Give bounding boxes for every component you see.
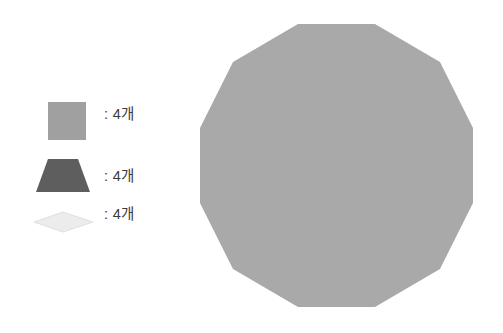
legend: : 4개 : 4개 : 4개 <box>0 95 175 240</box>
main-figure <box>196 14 486 319</box>
trapezoid-swatch-icon <box>26 155 102 199</box>
trapezoid-swatch-shape <box>36 159 90 192</box>
legend-item-square: : 4개 <box>0 99 175 145</box>
rhombus-swatch-shape <box>34 212 93 232</box>
square-swatch-shape <box>48 102 86 140</box>
legend-label-square: : 4개 <box>104 107 135 122</box>
square-swatch-icon <box>26 99 102 143</box>
legend-item-trapezoid: : 4개 <box>0 155 175 201</box>
legend-label-trapezoid: : 4개 <box>104 169 135 184</box>
legend-label-rhombus: : 4개 <box>104 207 135 222</box>
figure-canvas: : 4개 : 4개 : 4개 <box>0 0 503 333</box>
dodecagon-shape <box>200 24 473 307</box>
rhombus-swatch-icon <box>26 201 102 245</box>
legend-item-rhombus: : 4개 <box>0 201 175 247</box>
